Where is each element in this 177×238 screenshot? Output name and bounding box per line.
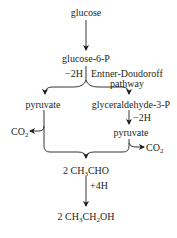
node-ethanol: 2 CH3CH2OH (58, 211, 115, 222)
label-minus-2h-right: −2H (133, 112, 151, 123)
node-acetaldehyde: 2 CH3CHO (63, 165, 109, 176)
ethanol-mid: CH (83, 211, 97, 222)
arrow-to-pyruvate-left (45, 80, 86, 94)
node-pyruvate-left: pyruvate (26, 99, 61, 110)
co2-right-sub: 2 (160, 147, 164, 155)
acetaldehyde-coef: 2 CH (63, 165, 84, 176)
node-glucose: glucose (71, 7, 102, 18)
ethanol-rest: OH (100, 211, 114, 222)
node-glucose-6-p: glucose-6-P (62, 53, 110, 64)
node-pyruvate-right: pyruvate (114, 127, 149, 138)
label-plus-4h: +4H (90, 180, 108, 191)
label-minus-2h-top: −2H (65, 68, 83, 79)
right-vertical (86, 139, 129, 158)
label-co2-right: CO2 (146, 142, 163, 153)
label-co2-left: CO2 (11, 126, 28, 137)
co2-left-sub: 2 (25, 131, 29, 139)
label-pathway: pathway (110, 78, 144, 89)
arrow-co2-right (129, 143, 144, 147)
co2-right-base: CO (146, 142, 160, 153)
node-glyceraldehyde-3-p: glyceraldehyde-3-P (92, 99, 170, 110)
left-vertical (44, 110, 86, 158)
co2-left-base: CO (11, 126, 25, 137)
arrow-co2-left (30, 126, 44, 131)
ethanol-coef: 2 CH (58, 211, 79, 222)
acetaldehyde-rest: CHO (88, 165, 109, 176)
